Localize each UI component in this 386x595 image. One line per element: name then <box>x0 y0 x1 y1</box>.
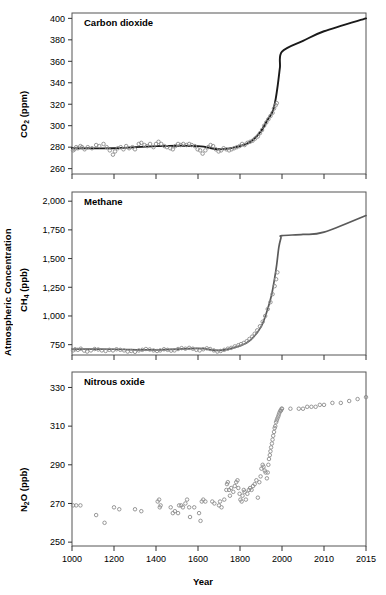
co2-data-point <box>201 152 205 156</box>
n2o-data-point <box>289 407 293 411</box>
n2o-data-point <box>270 442 274 446</box>
x-tick-label: 2010 <box>314 554 334 564</box>
n2o-data-point <box>232 490 236 494</box>
n2o-data-point <box>268 453 272 457</box>
n2o-data-point <box>118 508 122 512</box>
x-tick-label: 1600 <box>188 554 208 564</box>
n2o-data-point <box>267 457 271 461</box>
co2-ytick-label: 280 <box>50 142 65 152</box>
n2o-data-point <box>220 506 224 510</box>
n2o-data-point <box>356 397 360 401</box>
n2o-data-point <box>218 500 222 504</box>
co2-ytick-label: 400 <box>50 14 65 24</box>
n2o-data-point <box>258 480 262 484</box>
n2o-data-point <box>265 477 269 481</box>
ch4-panel-title: Methane <box>84 196 123 207</box>
co2-ytick-label: 300 <box>50 121 65 131</box>
n2o-data-point <box>269 450 273 454</box>
ch4-axis-label: CH4 (ppb) <box>18 226 30 312</box>
n2o-data-point <box>310 405 314 409</box>
n2o-data-point <box>133 508 137 512</box>
n2o-data-point <box>223 498 227 502</box>
n2o-data-point <box>140 509 144 513</box>
n2o-data-point <box>233 484 237 488</box>
x-tick-label: 1800 <box>230 554 250 564</box>
x-tick-label: 1400 <box>146 554 166 564</box>
n2o-data-point <box>244 498 248 502</box>
n2o-axis-label-text: N2O (ppb) <box>18 468 29 512</box>
n2o-data-point <box>241 494 245 498</box>
n2o-ytick-label: 250 <box>50 537 65 547</box>
n2o-data-point <box>237 486 241 490</box>
n2o-data-point <box>259 475 263 479</box>
n2o-data-point <box>339 401 343 405</box>
co2-data-point <box>102 142 106 146</box>
n2o-axis-label: N2O (ppb) <box>18 424 30 512</box>
n2o-ytick-label: 290 <box>50 460 65 470</box>
n2o-data-point <box>228 494 232 498</box>
n2o-data-point <box>79 504 83 508</box>
n2o-data-point <box>192 506 196 510</box>
n2o-data-point <box>318 403 322 407</box>
co2-data-point <box>98 144 102 148</box>
n2o-data-point <box>185 498 189 502</box>
n2o-data-point <box>269 446 273 450</box>
co2-ytick-label: 360 <box>50 57 65 67</box>
co2-axis-label-text: CO2 (ppm) <box>18 91 29 138</box>
co2-panel-title: Carbon dioxide <box>84 17 153 28</box>
co2-data-point <box>148 142 152 146</box>
co2-ytick-label: 260 <box>50 164 65 174</box>
co2-ytick-label: 320 <box>50 100 65 110</box>
n2o-data-point <box>322 403 326 407</box>
n2o-data-point <box>176 511 180 515</box>
n2o-data-point <box>301 407 305 411</box>
n2o-data-point <box>272 430 276 434</box>
co2-fitted-line <box>72 18 366 149</box>
n2o-data-point <box>267 463 271 467</box>
x-tick-label: 2015 <box>356 554 376 564</box>
ch4-fitted-line <box>72 216 366 351</box>
n2o-data-point <box>271 434 275 438</box>
plot-canvas: 2602803003203403603804007501,0001,2501,5… <box>0 0 386 595</box>
co2-data-point <box>113 150 117 154</box>
x-axis-label: Year <box>40 576 366 587</box>
n2o-plot-frame <box>72 372 366 546</box>
n2o-data-point <box>199 519 203 523</box>
ch4-data-point <box>133 350 137 354</box>
y-axis-label-outer: Atmospheric Concentration <box>2 196 13 356</box>
x-tick-label: 1000 <box>62 554 82 564</box>
n2o-data-point <box>197 511 201 515</box>
co2-ytick-label: 340 <box>50 78 65 88</box>
n2o-data-point <box>112 506 116 510</box>
co2-axis-label: CO2 (ppm) <box>18 46 30 138</box>
n2o-data-point <box>103 521 107 525</box>
n2o-data-point <box>256 496 260 500</box>
n2o-data-point <box>187 506 191 510</box>
n2o-data-point <box>188 515 192 519</box>
n2o-data-point <box>297 407 301 411</box>
n2o-ytick-label: 270 <box>50 499 65 509</box>
ch4-ytick-label: 2,000 <box>42 196 65 206</box>
n2o-data-point <box>94 513 98 517</box>
figure-greenhouse-gas-concentrations: Atmospheric Concentration CO2 (ppm) CH4 … <box>0 0 386 595</box>
n2o-data-point <box>305 405 309 409</box>
ch4-ytick-label: 1,750 <box>42 225 65 235</box>
ch4-ytick-label: 1,250 <box>42 283 65 293</box>
x-tick-label: 1200 <box>104 554 124 564</box>
n2o-data-point <box>184 502 188 506</box>
n2o-ytick-label: 310 <box>50 421 65 431</box>
n2o-data-point <box>169 506 173 510</box>
ch4-ytick-label: 1,500 <box>42 254 65 264</box>
n2o-data-point <box>314 405 318 409</box>
n2o-panel-title: Nitrous oxide <box>84 376 145 387</box>
ch4-ytick-label: 1,000 <box>42 311 65 321</box>
n2o-data-point <box>347 399 351 403</box>
ch4-axis-label-text: CH4 (ppb) <box>18 268 29 312</box>
n2o-data-point <box>246 492 250 496</box>
ch4-plot-frame <box>72 192 366 355</box>
ch4-ytick-label: 750 <box>50 340 65 350</box>
co2-ytick-label: 380 <box>50 35 65 45</box>
n2o-data-point <box>331 401 335 405</box>
x-tick-label: 2000 <box>272 554 292 564</box>
n2o-ytick-label: 330 <box>50 383 65 393</box>
